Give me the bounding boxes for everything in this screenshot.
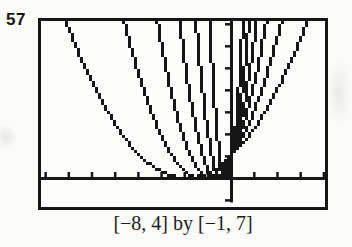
- curve-5: [194, 21, 251, 180]
- scan-smudge: [326, 58, 352, 128]
- textbook-figure: 57 [−8, 4] by [−1, 7]: [0, 0, 352, 247]
- y-axis: [230, 21, 233, 202]
- viewing-window-caption: [−8, 4] by [−1, 7]: [38, 212, 328, 235]
- plot-area: [41, 21, 325, 207]
- calculator-screen-frame: [38, 18, 328, 210]
- scan-smudge: [0, 124, 18, 150]
- exercise-number: 57: [6, 10, 26, 30]
- curve-1: [65, 21, 308, 180]
- x-axis-ticks: [44, 172, 325, 177]
